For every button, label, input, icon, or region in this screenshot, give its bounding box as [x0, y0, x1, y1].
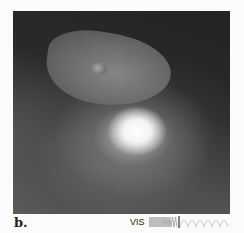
spectrum-indicator: VIS [130, 216, 233, 228]
wavelength-spectrum-icon [149, 216, 233, 228]
comet-impact-photo [13, 11, 230, 214]
panel-label: b. [14, 215, 28, 230]
crater [91, 63, 107, 75]
band-label: VIS [130, 217, 145, 227]
